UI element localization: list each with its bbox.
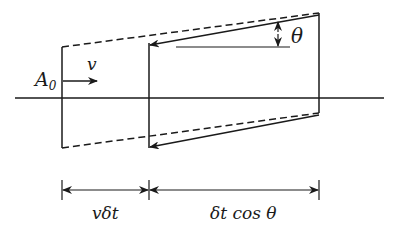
angle-label: θ	[291, 24, 303, 48]
bottom-slanted-arrow	[150, 115, 319, 147]
flux-diagram: A0 v θ vδt δt cos θ	[0, 0, 396, 235]
left-dimension-label: vδt	[92, 203, 119, 223]
area-label: A0	[33, 68, 57, 93]
dashed-top-edge	[62, 13, 319, 47]
velocity-label: v	[87, 54, 97, 74]
right-dimension-label: δt cos θ	[210, 203, 277, 223]
dashed-bottom-edge	[62, 113, 319, 148]
